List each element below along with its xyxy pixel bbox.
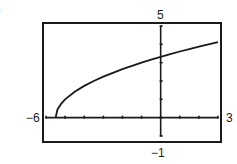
y-max-label: 5	[157, 8, 164, 22]
viewing-window-frame	[43, 23, 221, 142]
y-min-label: −1	[151, 146, 165, 160]
x-max-label: 3	[226, 111, 233, 125]
function-curve	[56, 42, 218, 118]
axes	[46, 26, 218, 136]
tick-marks	[46, 26, 218, 136]
graph-plot	[0, 0, 237, 164]
x-min-label: −6	[26, 111, 40, 125]
